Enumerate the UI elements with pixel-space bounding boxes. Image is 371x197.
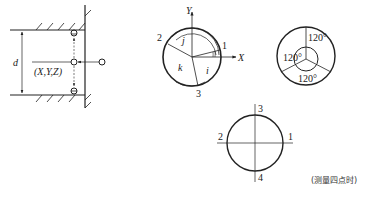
angle-label-bottom: 120° bbox=[298, 73, 317, 84]
x-axis-label: X bbox=[237, 52, 245, 63]
radius-3 bbox=[192, 57, 198, 86]
angle-label-left: 120° bbox=[283, 52, 302, 63]
angle-k-label: k bbox=[178, 62, 183, 73]
angle-i-label: i bbox=[206, 65, 209, 76]
probe-top bbox=[71, 30, 77, 36]
point-4-label: 4 bbox=[258, 172, 263, 183]
point-2-label: 2 bbox=[157, 32, 162, 43]
point-3-label: 3 bbox=[258, 103, 263, 114]
measurement-diagram: d (X,Y,Z) Y X 1 2 3 bbox=[0, 0, 371, 197]
probe-center bbox=[71, 59, 77, 65]
wall-hatch bbox=[85, 10, 91, 108]
probe-point-label: (X,Y,Z) bbox=[34, 66, 63, 78]
point-1-label: 1 bbox=[288, 131, 293, 142]
three-point-circle: Y X 1 2 3 i j k bbox=[157, 5, 245, 99]
four-point-circle: 1 2 3 4 (测量四点时) bbox=[217, 103, 357, 185]
radius-2 bbox=[168, 44, 192, 57]
point-1-label: 1 bbox=[222, 40, 227, 51]
bore-section: d (X,Y,Z) bbox=[10, 5, 105, 108]
spacing-circle: 120° 120° 120° bbox=[277, 27, 335, 85]
probe-start bbox=[99, 59, 105, 65]
caption: (测量四点时) bbox=[311, 175, 357, 185]
angle-label-top: 120° bbox=[308, 32, 327, 43]
top-hatch bbox=[36, 23, 85, 30]
point-2-label: 2 bbox=[218, 131, 223, 142]
dimension-label: d bbox=[13, 57, 19, 68]
point-3-label: 3 bbox=[196, 88, 201, 99]
bottom-hatch bbox=[36, 95, 75, 102]
